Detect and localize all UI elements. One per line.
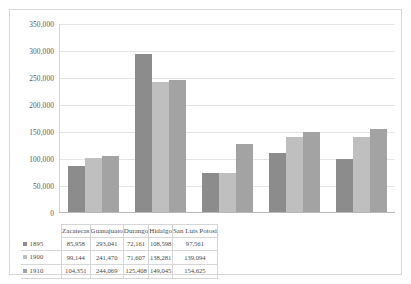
table-corner-cell (21, 225, 62, 238)
table-cell: 85,958 (62, 238, 91, 251)
bar-1910-san-luis-potosi[interactable] (370, 129, 387, 212)
y-axis-tick-label: 50,000 (33, 182, 54, 191)
y-axis-tick-label: 300,000 (29, 47, 54, 56)
table-category-header: Zacatecas (62, 225, 91, 238)
bar-1910-durango[interactable] (236, 144, 253, 212)
plot-area (59, 24, 395, 213)
y-axis-tick-label: 0 (50, 209, 54, 218)
table-category-header: Guanajuato (90, 225, 123, 238)
table-cell: 154,625 (172, 264, 217, 278)
y-axis: 050,000100,000150,000200,000250,000300,0… (10, 10, 57, 224)
bar-1895-hidalgo[interactable] (269, 153, 286, 212)
bar-group (328, 24, 395, 212)
bar-1910-guanajuato[interactable] (169, 80, 186, 212)
legend-swatch-icon (23, 269, 27, 273)
table-cell: 99,144 (62, 251, 91, 265)
table-cell: 97,561 (172, 238, 217, 251)
bar-1900-guanajuato[interactable] (152, 82, 169, 212)
table-row: 190099,144241,47071,607138,281139,094 (21, 251, 217, 265)
legend-series-label: 1900 (30, 254, 44, 261)
bar-group (127, 24, 194, 212)
table-row: 189585,958293,04172,161108,59897,561 (21, 238, 217, 251)
legend-entry-1910: 1910 (21, 264, 62, 278)
chart-container: 050,000100,000150,000200,000250,000300,0… (9, 9, 402, 275)
bar-1910-zacatecas[interactable] (102, 156, 119, 212)
plot-region: 050,000100,000150,000200,000250,000300,0… (10, 10, 401, 224)
table-row: 1910104,351244,069125,408149,045154,625 (21, 264, 217, 278)
bar-1900-hidalgo[interactable] (286, 137, 303, 212)
y-axis-tick-label: 250,000 (29, 74, 54, 83)
legend-series-label: 1895 (30, 240, 44, 247)
legend-series-label: 1910 (30, 267, 44, 274)
table-cell: 108,598 (149, 238, 173, 251)
bar-1900-san-luis-potosi[interactable] (353, 137, 370, 212)
table-category-header: Durango (123, 225, 149, 238)
bar-group (261, 24, 328, 212)
bar-1895-san-luis-potosi[interactable] (336, 159, 353, 212)
y-axis-tick-label: 100,000 (29, 155, 54, 164)
legend-swatch-icon (23, 255, 27, 259)
bar-1895-durango[interactable] (202, 173, 219, 212)
table-cell: 71,607 (123, 251, 149, 265)
chart-data-table: ZacatecasGuanajuatoDurangoHidalgoSan Lui… (21, 224, 218, 279)
legend-entry-1900: 1900 (21, 251, 62, 265)
table-cell: 138,281 (149, 251, 173, 265)
table-body: 189585,958293,04172,161108,59897,5611900… (21, 238, 217, 278)
y-axis-tick-label: 150,000 (29, 128, 54, 137)
bar-group (194, 24, 261, 212)
legend-entry-1895: 1895 (21, 238, 62, 251)
bar-1895-zacatecas[interactable] (68, 166, 85, 212)
bar-1900-durango[interactable] (219, 173, 236, 212)
bar-1895-guanajuato[interactable] (135, 54, 152, 212)
table-cell: 149,045 (149, 264, 173, 278)
table-cell: 104,351 (62, 264, 91, 278)
table-category-header: San Luis Potosi (172, 225, 217, 238)
table-header-row: ZacatecasGuanajuatoDurangoHidalgoSan Lui… (21, 225, 217, 238)
table-cell: 72,161 (123, 238, 149, 251)
bar-1900-zacatecas[interactable] (85, 158, 102, 212)
table-cell: 244,069 (90, 264, 123, 278)
table-cell: 125,408 (123, 264, 149, 278)
y-axis-tick-label: 200,000 (29, 101, 54, 110)
legend-swatch-icon (23, 242, 27, 246)
table-cell: 139,094 (172, 251, 217, 265)
y-axis-tick-label: 350,000 (29, 20, 54, 29)
bar-group (60, 24, 127, 212)
bars-layer (60, 24, 395, 212)
table-cell: 241,470 (90, 251, 123, 265)
table-category-header: Hidalgo (149, 225, 173, 238)
bar-1910-hidalgo[interactable] (303, 132, 320, 212)
table-cell: 293,041 (90, 238, 123, 251)
